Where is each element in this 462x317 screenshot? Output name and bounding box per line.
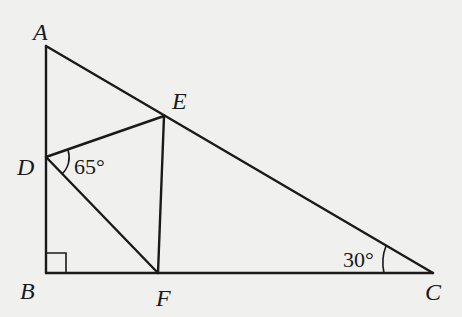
angle-label-30: 30° — [343, 247, 374, 272]
angle-arc-EDF — [62, 150, 69, 174]
label-C: C — [425, 279, 442, 305]
angle-label-65: 65° — [74, 154, 105, 179]
label-D: D — [16, 154, 34, 180]
angle-arc-ACB — [383, 246, 386, 273]
label-A: A — [31, 19, 48, 45]
right-angle-mark — [46, 253, 66, 273]
label-B: B — [20, 278, 35, 304]
segment-DE — [46, 116, 164, 157]
geometry-figure: A B C D E F 65° 30° — [0, 0, 462, 317]
segment-EF — [158, 116, 164, 273]
label-E: E — [171, 88, 187, 114]
label-F: F — [155, 285, 171, 311]
